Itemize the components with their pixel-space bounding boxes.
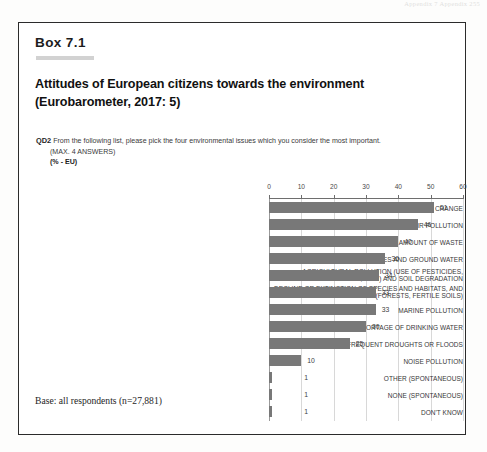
running-header: Appendix 7 Appendix 255 [300,0,480,9]
bar [269,253,385,264]
bar [269,202,434,213]
bar [269,219,418,230]
bar-value-label: 46 [424,221,432,228]
bar-value-label: 30 [372,323,380,330]
bar-value-label: 51 [440,204,448,211]
category-label-text: NONE (SPONTANEOUS) [241,392,463,400]
x-tick-label: 20 [330,183,337,190]
page-canvas: Appendix 7 Appendix 255 Box 7.1 Attitude… [0,0,487,452]
x-tick-label: 30 [362,183,369,190]
bar-value-label: 40 [404,238,412,245]
question-unit: (% - EU) [50,157,456,168]
chart-row: POLLUTION OF RIVERS, LAKES AND GROUND WA… [19,250,467,267]
x-tick-label: 40 [395,183,402,190]
question-note: (MAX. 4 ANSWERS) [50,147,456,158]
bar-value-label: 25 [356,340,364,347]
x-tick-label: 50 [427,183,434,190]
bar-value-label: 33 [382,306,390,313]
question-text: From the following list, please pick the… [51,137,381,145]
bar [269,372,272,383]
bar-value-label: 1 [304,374,308,381]
category-label: DON'T KNOW [245,403,467,420]
chart-row: DECLINE OR EXTINCTION OF SPECIES AND HAB… [19,284,467,301]
box-title-line-1: Attitudes of European citizens towards t… [35,77,364,91]
box-label: Box 7.1 [35,35,86,50]
bar [269,355,301,366]
bar-value-label: 1 [304,391,308,398]
chart-row: SHORTAGE OF DRINKING WATER30 [19,318,467,335]
question-line-main: QD2 From the following list, please pick… [36,136,456,147]
bar [269,304,376,315]
bar [269,270,379,281]
bar-value-label: 1 [304,408,308,415]
bar-chart: 0102030405060 CLIMATE CHANGE51AIR POLLUT… [19,171,467,426]
chart-row: GROWING AMOUNT OF WASTE40 [19,233,467,250]
category-label-text: DON'T KNOW [241,409,463,417]
bar-value-label: 34 [385,272,393,279]
question-code: QD2 [36,136,51,145]
bar [269,287,376,298]
bar [269,389,272,400]
bar-value-label: 33 [382,289,390,296]
bar-value-label: 10 [307,357,315,364]
chart-row: OTHER (SPONTANEOUS)1 [19,369,467,386]
x-tick-label: 0 [267,183,271,190]
chart-row: FREQUENT DROUGHTS OR FLOODS25 [19,335,467,352]
chart-row: CLIMATE CHANGE51 [19,199,467,216]
page-title: Attitudes of European citizens towards t… [35,75,445,111]
bar [269,236,398,247]
bar-value-label: 36 [391,255,399,262]
chart-row: MARINE POLLUTION33 [19,301,467,318]
category-label: OTHER (SPONTANEOUS) [245,369,467,386]
category-label: NONE (SPONTANEOUS) [245,386,467,403]
x-tick-label: 10 [298,183,305,190]
chart-row: AIR POLLUTION46 [19,216,467,233]
category-label-text: OTHER (SPONTANEOUS) [241,375,463,383]
box-7-1-container: Box 7.1 Attitudes of European citizens t… [18,22,466,435]
bar [269,338,350,349]
box-rule-divider [36,56,94,60]
base-note: Base: all respondents (n=27,881) [35,395,162,406]
box-title-line-2: (Eurobarometer, 2017: 5) [35,95,180,109]
question-block: QD2 From the following list, please pick… [36,136,456,168]
chart-row: AGRICULTURAL POLLUTION (USE OF PESTICIDE… [19,267,467,284]
bar [269,406,272,417]
x-tick-label: 60 [459,183,466,190]
chart-row: NOISE POLLUTION10 [19,352,467,369]
bar [269,321,366,332]
